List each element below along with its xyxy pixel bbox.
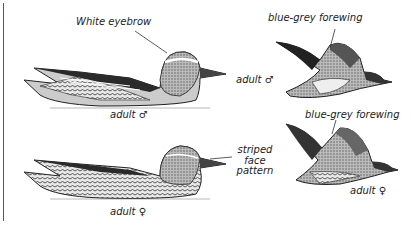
annotation-forewing-male: blue-grey forewing [268, 13, 362, 24]
female-swimming-duck [24, 146, 226, 199]
male-flying-duck [276, 42, 392, 98]
caption-female-swimming: adult ♀ [110, 207, 146, 218]
eyebrow-pointer [135, 31, 167, 53]
female-flying-duck [286, 124, 398, 185]
striped-face-line3: pattern [233, 166, 277, 177]
male-swimming-duck [24, 52, 226, 108]
caption-female-flying: adult ♀ [350, 186, 386, 197]
caption-male-swimming: adult ♂ [110, 110, 148, 121]
caption-male-flying: adult ♂ [236, 75, 274, 86]
annotation-forewing-female: blue-grey forewing [305, 110, 399, 121]
annotation-white-eyebrow: White eyebrow [76, 17, 151, 28]
striped-face-pointer [210, 157, 232, 159]
annotation-striped-face-pattern: striped face pattern [233, 145, 277, 177]
striped-face-line1: striped [233, 145, 277, 156]
forewing-female-pointer [332, 120, 336, 134]
